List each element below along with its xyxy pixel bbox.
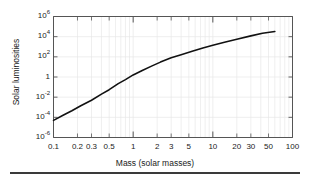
x-tick-label: 100: [279, 143, 307, 151]
y-tick-label: 104: [18, 32, 50, 40]
chart-curve-group: [54, 32, 275, 121]
y-tick-label: 106: [18, 12, 50, 20]
y-tick-label: 102: [18, 52, 50, 60]
y-tick-label: 10-2: [18, 93, 50, 101]
y-tick-label: 10-6: [18, 133, 50, 141]
y-tick-label: 10-4: [18, 113, 50, 121]
figure-page: 106104102110-210-410-6 0.10.20.30.512351…: [0, 0, 310, 179]
y-tick-label: 1: [18, 73, 50, 81]
bottom-divider-rule: [10, 172, 300, 174]
x-axis-title: Mass (solar masses): [0, 158, 310, 168]
y-axis-title: Solar luminosities: [11, 17, 21, 127]
mass-luminosity-curve: [54, 32, 275, 121]
